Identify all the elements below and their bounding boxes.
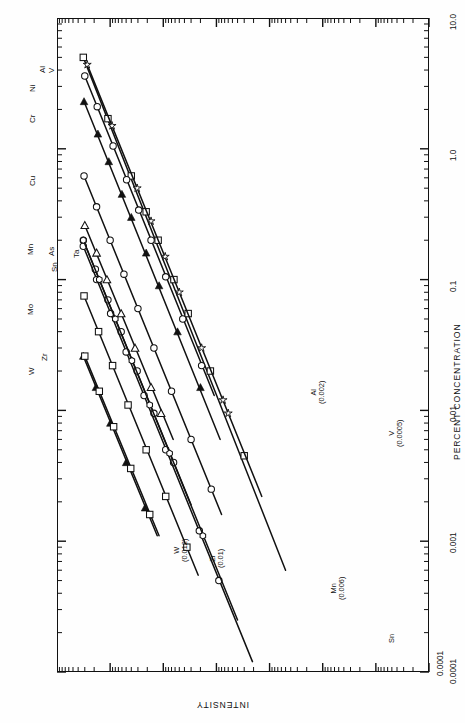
- detection-limit-value: (0.0005): [396, 419, 404, 447]
- series-line: [84, 296, 198, 575]
- element-label-ni: Ni: [28, 84, 37, 92]
- data-point-marker: [93, 249, 101, 256]
- element-label-zr: Zr: [40, 353, 49, 361]
- data-point-marker: [148, 237, 154, 243]
- percent-concentration-axis-label: PERCENT CONCENTRATION: [452, 323, 462, 460]
- data-point-marker: [163, 274, 169, 280]
- data-point-marker: [109, 362, 115, 368]
- data-point-marker: [105, 158, 113, 165]
- data-point-marker: [157, 410, 165, 417]
- detection-limit-zr: Zr(0.01): [209, 549, 225, 568]
- detection-limit-value: (0.006): [338, 577, 346, 600]
- data-point-marker: [147, 402, 153, 408]
- element-label-sn: Sn: [50, 262, 59, 272]
- conc-tick-1-0: 1.0: [449, 149, 458, 160]
- data-point-marker: [107, 237, 113, 243]
- conc-tick-10-0: 10.0: [449, 14, 458, 30]
- data-point-marker: [81, 237, 87, 243]
- figure-root: 10.01.00.10.010.0010.0001 0.0001 PERCENT…: [0, 0, 465, 723]
- plot-overlay: [0, 0, 465, 723]
- data-point-marker: [81, 222, 89, 229]
- detection-limit-element: Sn: [388, 634, 396, 643]
- data-point-marker: [180, 316, 186, 322]
- data-point-marker: [135, 305, 141, 311]
- element-label-mo: Mo: [26, 304, 35, 315]
- data-point-marker: [151, 345, 157, 351]
- data-point-marker: [163, 493, 169, 499]
- data-point-marker: [128, 465, 134, 471]
- data-point-marker: [118, 190, 126, 197]
- data-series-layer: [79, 54, 285, 661]
- data-point-marker: [81, 293, 87, 299]
- data-point-marker: [94, 103, 100, 109]
- detection-limit-value: (0.002): [318, 381, 326, 404]
- data-point-marker: [188, 436, 194, 442]
- data-point-marker: [113, 316, 119, 322]
- series-line: [85, 76, 214, 395]
- data-point-marker: [96, 388, 102, 394]
- series-line: [87, 65, 262, 497]
- detection-limit-value: (0.012): [181, 539, 189, 562]
- data-point-marker: [200, 533, 206, 539]
- data-point-marker: [110, 143, 116, 149]
- element-label-ta: Ta: [72, 250, 81, 258]
- data-point-marker: [129, 357, 135, 363]
- conc-tick-0-001: 0.001: [449, 533, 458, 554]
- data-point-marker: [97, 276, 103, 282]
- data-point-marker: [147, 384, 155, 391]
- data-point-marker: [80, 54, 86, 60]
- data-point-marker: [110, 424, 116, 430]
- axis-ticks: [57, 18, 429, 672]
- element-label-w: W: [27, 367, 36, 375]
- data-point-marker: [93, 204, 99, 210]
- detection-limit-w: W(0.012): [173, 539, 189, 562]
- element-label-cu: Cu: [28, 176, 37, 186]
- data-point-marker: [168, 388, 174, 394]
- data-point-marker: [123, 177, 129, 183]
- data-point-marker: [198, 362, 204, 368]
- data-point-marker: [95, 328, 101, 334]
- data-point-marker: [81, 173, 87, 179]
- data-point-marker: [143, 447, 149, 453]
- data-point-marker: [82, 73, 88, 79]
- detection-limit-al: Al(0.002): [310, 381, 326, 404]
- data-point-marker: [167, 450, 173, 456]
- intensity-tick-0-0001: 0.0001: [436, 651, 445, 676]
- element-label-as: As: [47, 247, 56, 256]
- data-point-marker: [127, 213, 135, 220]
- detection-limit-sn: Sn: [388, 634, 396, 643]
- data-point-marker: [147, 511, 153, 517]
- detection-limit-mn: Mn(0.006): [330, 577, 346, 600]
- detection-limit-value: (0.01): [217, 549, 225, 568]
- intensity-axis-label: INTENSITY: [196, 700, 249, 710]
- element-label-al: Al: [38, 66, 47, 73]
- data-point-marker: [117, 310, 125, 317]
- element-label-mn: Mn: [26, 244, 35, 255]
- conc-tick-0-0001: 0.0001: [449, 659, 458, 684]
- data-point-marker: [121, 271, 127, 277]
- data-point-marker: [131, 344, 139, 351]
- data-point-marker: [82, 353, 88, 359]
- element-label-v: V: [47, 68, 56, 73]
- element-label-cr: Cr: [28, 115, 37, 123]
- series-ni: [82, 73, 215, 396]
- series-line: [85, 356, 159, 536]
- data-point-marker: [80, 98, 88, 105]
- data-point-marker: [208, 486, 214, 492]
- data-point-marker: [224, 409, 232, 417]
- detection-limit-v: V(0.0005): [388, 419, 404, 447]
- data-point-marker: [136, 207, 142, 213]
- conc-tick-0-1: 0.1: [449, 280, 458, 291]
- data-point-marker: [125, 402, 131, 408]
- data-point-marker: [103, 276, 111, 283]
